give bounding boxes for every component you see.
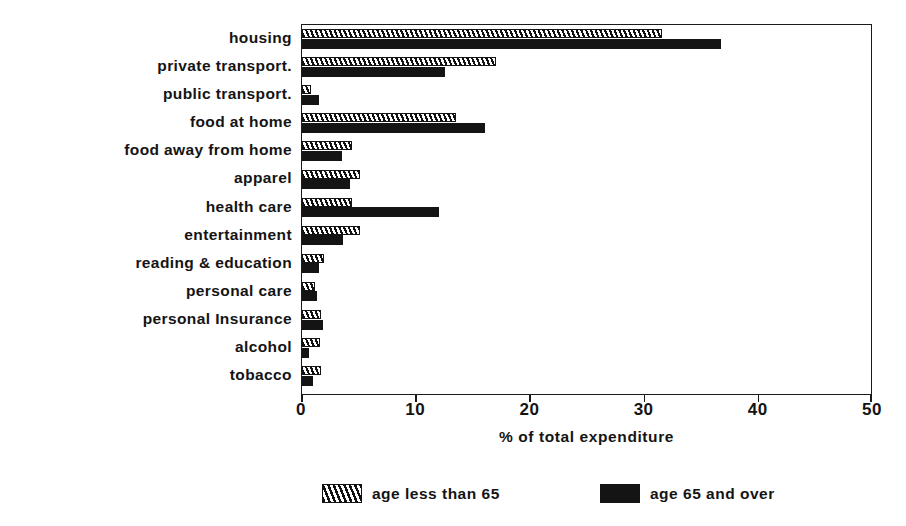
bar-over65: [302, 179, 350, 189]
bar-over65: [302, 235, 343, 245]
category-label: alcohol: [0, 333, 292, 361]
bar-under65: [302, 198, 352, 207]
bar-under65: [302, 29, 662, 38]
bar-group: [302, 167, 871, 195]
category-label: personal care: [0, 277, 292, 305]
x-tick-label: 10: [405, 400, 425, 420]
bar-under65: [302, 226, 360, 235]
bar-under65: [302, 170, 360, 179]
category-label: public transport.: [0, 80, 292, 108]
bar-under65: [302, 57, 496, 66]
category-label: health care: [0, 193, 292, 221]
bars-container: [302, 25, 871, 394]
bar-group: [302, 82, 871, 110]
category-axis-labels: housingprivate transport.public transpor…: [0, 24, 292, 389]
category-label: personal Insurance: [0, 305, 292, 333]
bar-over65: [302, 263, 319, 273]
bar-group: [302, 138, 871, 166]
bar-over65: [302, 151, 342, 161]
bar-group: [302, 26, 871, 54]
legend-item[interactable]: age 65 and over: [600, 484, 775, 503]
x-tick-label: 20: [519, 400, 539, 420]
legend-item[interactable]: age less than 65: [322, 484, 500, 503]
legend-swatch-solid-icon: [600, 484, 640, 503]
x-tick-label: 0: [296, 400, 306, 420]
legend-label: age 65 and over: [650, 485, 775, 503]
bar-over65: [302, 348, 309, 358]
bar-under65: [302, 113, 456, 122]
x-axis-title: % of total expenditure: [301, 428, 872, 446]
bar-over65: [302, 95, 319, 105]
legend-label: age less than 65: [372, 485, 500, 503]
legend-swatch-hatch-icon: [322, 484, 362, 503]
chart-legend: age less than 65age 65 and over: [0, 484, 906, 508]
bar-group: [302, 195, 871, 223]
category-label: housing: [0, 24, 292, 52]
bar-group: [302, 223, 871, 251]
category-label: food at home: [0, 108, 292, 136]
category-label: reading & education: [0, 249, 292, 277]
category-label: tobacco: [0, 361, 292, 389]
x-tick-label: 30: [634, 400, 654, 420]
bar-under65: [302, 366, 321, 375]
bar-over65: [302, 67, 445, 77]
category-label: food away from home: [0, 136, 292, 164]
plot-area: [301, 24, 872, 395]
bar-over65: [302, 320, 323, 330]
bar-under65: [302, 310, 321, 319]
bar-group: [302, 54, 871, 82]
bar-under65: [302, 282, 315, 291]
bar-over65: [302, 39, 721, 49]
x-tick-label: 40: [748, 400, 768, 420]
bar-group: [302, 363, 871, 391]
bar-over65: [302, 291, 317, 301]
x-axis-ticks: [301, 395, 872, 402]
bar-group: [302, 251, 871, 279]
bar-group: [302, 110, 871, 138]
bar-under65: [302, 254, 324, 263]
category-label: entertainment: [0, 221, 292, 249]
category-label: private transport.: [0, 52, 292, 80]
bar-under65: [302, 141, 352, 150]
bar-group: [302, 307, 871, 335]
bar-under65: [302, 85, 311, 94]
x-tick-label: 50: [862, 400, 882, 420]
bar-over65: [302, 123, 485, 133]
expenditure-bar-chart: housingprivate transport.public transpor…: [0, 0, 906, 526]
category-label: apparel: [0, 164, 292, 192]
bar-over65: [302, 207, 439, 217]
bar-group: [302, 279, 871, 307]
bar-over65: [302, 376, 313, 386]
bar-group: [302, 335, 871, 363]
bar-under65: [302, 338, 320, 347]
